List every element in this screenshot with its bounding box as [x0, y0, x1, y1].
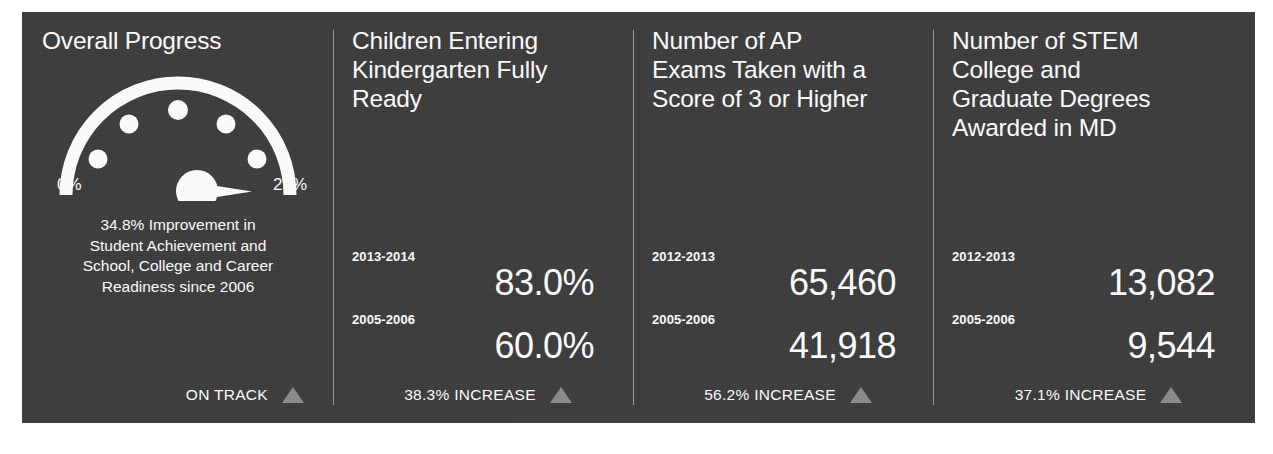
stat-row: 2005-2006 60.0% [352, 312, 616, 367]
panel-divider [633, 30, 634, 405]
stat-row: 2013-2014 83.0% [352, 249, 616, 304]
panel-spacer [22, 297, 334, 367]
panel-stem-degrees: Number of STEM College and Graduate Degr… [934, 12, 1255, 423]
progress-caption: 34.8% Improvement in Student Achievement… [22, 201, 334, 297]
triangle-up-icon [850, 387, 872, 403]
status-badge: 38.3% INCREASE [404, 386, 536, 404]
stat-value: 83.0% [352, 262, 616, 304]
stat-list: 2012-2013 13,082 2005-2006 9,544 [934, 249, 1255, 367]
status-badge: 37.1% INCREASE [1015, 386, 1147, 404]
panel-footer: 38.3% INCREASE [334, 367, 634, 423]
triangle-up-icon [282, 387, 304, 403]
status-badge: ON TRACK [186, 386, 268, 404]
panel-spacer [934, 142, 1255, 249]
gauge-tick-dot-2 [120, 115, 139, 134]
panel-spacer [634, 113, 934, 249]
gauge-tick-dot-4 [217, 115, 236, 134]
status-badge: 56.2% INCREASE [704, 386, 836, 404]
panel-title: Children Entering Kindergarten Fully Rea… [334, 12, 634, 113]
progress-dashboard: Overall Progress 0% 25% [22, 12, 1255, 423]
panel-ap-exams: Number of AP Exams Taken with a Score of… [634, 12, 934, 423]
panel-title: Number of AP Exams Taken with a Score of… [634, 12, 934, 113]
stat-value: 9,544 [952, 325, 1237, 367]
gauge-tick-dot-1 [89, 150, 108, 169]
stat-value: 60.0% [352, 325, 616, 367]
panel-footer: ON TRACK [22, 367, 334, 423]
gauge-tick-dot-3 [168, 100, 188, 120]
panel-title: Number of STEM College and Graduate Degr… [934, 12, 1255, 142]
gauge-scale: 0% 25% [40, 175, 316, 199]
stat-row: 2012-2013 65,460 [652, 249, 916, 304]
gauge-tick-dot-5 [248, 150, 267, 169]
progress-gauge: 0% 25% [40, 71, 316, 201]
stat-value: 41,918 [652, 325, 916, 367]
panel-divider [933, 30, 934, 405]
triangle-up-icon [550, 387, 572, 403]
panel-divider [333, 30, 334, 405]
panel-footer: 37.1% INCREASE [934, 367, 1255, 423]
gauge-max-label: 25% [273, 175, 307, 195]
stat-row: 2012-2013 13,082 [952, 249, 1237, 304]
panel-overall-progress: Overall Progress 0% 25% [22, 12, 334, 423]
stat-list: 2012-2013 65,460 2005-2006 41,918 [634, 249, 934, 367]
stat-list: 2013-2014 83.0% 2005-2006 60.0% [334, 249, 634, 367]
panel-kindergarten-ready: Children Entering Kindergarten Fully Rea… [334, 12, 634, 423]
stat-value: 13,082 [952, 262, 1237, 304]
stat-row: 2005-2006 41,918 [652, 312, 916, 367]
stat-row: 2005-2006 9,544 [952, 312, 1237, 367]
panel-spacer [334, 113, 634, 249]
gauge-min-label: 0% [57, 175, 82, 195]
triangle-up-icon [1160, 387, 1182, 403]
panel-title: Overall Progress [22, 12, 334, 55]
panel-footer: 56.2% INCREASE [634, 367, 934, 423]
stat-value: 65,460 [652, 262, 916, 304]
